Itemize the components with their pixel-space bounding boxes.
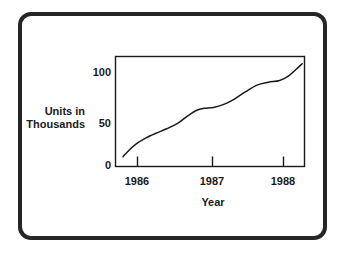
figure-root: 100 50 0 1986 1987 1988 Units in Thousan… bbox=[0, 0, 347, 267]
x-axis-tick-label-1987: 1987 bbox=[190, 176, 234, 187]
y-axis-title-line-1: Units in bbox=[23, 105, 85, 118]
y-axis-tick-label-0: 0 bbox=[86, 160, 111, 171]
line-chart: 100 50 0 1986 1987 1988 Units in Thousan… bbox=[0, 0, 347, 267]
data-line-series bbox=[123, 64, 302, 157]
chart-plot-svg bbox=[0, 0, 347, 267]
y-axis-title: Units in Thousands bbox=[23, 105, 85, 131]
y-axis-tick-label-100: 100 bbox=[86, 67, 111, 78]
x-axis-ticks bbox=[138, 157, 284, 167]
x-axis-title: Year bbox=[188, 197, 238, 208]
x-axis-tick-label-1986: 1986 bbox=[115, 176, 159, 187]
x-axis-tick-label-1988: 1988 bbox=[261, 176, 305, 187]
plot-frame bbox=[116, 57, 305, 167]
y-axis-tick-label-50: 50 bbox=[86, 118, 111, 129]
y-axis-title-line-2: Thousands bbox=[23, 118, 85, 131]
